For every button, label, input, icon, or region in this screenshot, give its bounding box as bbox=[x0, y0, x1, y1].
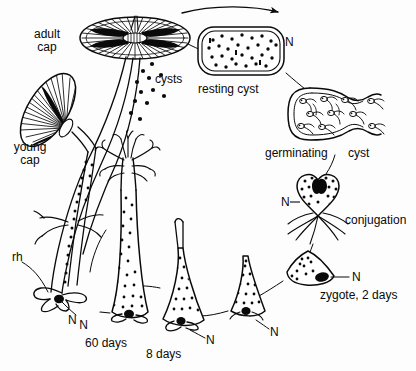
fusion-nucleus bbox=[312, 179, 327, 194]
label-conjugation: conjugation bbox=[345, 213, 406, 227]
label-n-60days: N bbox=[79, 318, 88, 332]
young-cap-stalk bbox=[68, 148, 96, 286]
acetabularia-life-cycle-diagram: adult cap young cap cysts N resting cyst… bbox=[0, 0, 416, 371]
connector-juvenile-to-8days bbox=[200, 311, 228, 316]
figure-canvas: adult cap young cap cysts N resting cyst… bbox=[0, 0, 416, 371]
connector-60days-to-adult bbox=[90, 230, 106, 272]
label-zygote: zygote, 2 days bbox=[320, 288, 397, 302]
8days-nucleus bbox=[176, 317, 185, 325]
n-8days-leader bbox=[190, 330, 205, 338]
conjugation-illustration bbox=[288, 175, 348, 244]
zygote-illustration bbox=[287, 251, 334, 285]
stage-60-days-illustration bbox=[95, 130, 160, 323]
stage-8-days-illustration bbox=[163, 219, 204, 331]
label-cyst: cyst bbox=[348, 146, 370, 160]
stalk-whorl-hairs bbox=[34, 211, 103, 244]
label-adult-cap-line2: cap bbox=[37, 40, 57, 54]
label-resting-cyst: resting cyst bbox=[198, 82, 259, 96]
label-adult-cap-line1: adult bbox=[34, 27, 61, 41]
60days-nucleus bbox=[124, 310, 134, 318]
label-n-zygote: N bbox=[352, 270, 361, 284]
adult-cap-illustration bbox=[80, 16, 190, 59]
label-young-cap-line2: cap bbox=[20, 153, 40, 167]
label-8-days: 8 days bbox=[146, 347, 181, 361]
connector-resting-to-germinating bbox=[286, 73, 305, 89]
conjugation-flagella bbox=[288, 213, 348, 244]
label-n-juvenile: N bbox=[270, 325, 279, 339]
n-60days-leader bbox=[100, 312, 110, 313]
germinating-cyst-illustration bbox=[288, 88, 385, 140]
cysts-scatter bbox=[129, 62, 166, 121]
rhizoid-illustration bbox=[34, 288, 87, 312]
label-60-days: 60 days bbox=[85, 336, 127, 350]
resting-cyst-illustration bbox=[198, 27, 284, 75]
label-germinating: germinating bbox=[265, 146, 328, 160]
label-n-conjugation: N bbox=[281, 195, 290, 209]
connector-zygote-to-juvenile bbox=[259, 281, 283, 296]
juvenile-illustration bbox=[230, 256, 265, 320]
label-young-cap-line1: young bbox=[14, 140, 47, 154]
juvenile-nucleus bbox=[241, 307, 250, 315]
label-cysts: cysts bbox=[155, 72, 182, 86]
label-n-8days: N bbox=[206, 333, 215, 347]
n-juvenile-leader bbox=[256, 320, 269, 329]
label-n-rhizoid: N bbox=[68, 313, 77, 327]
label-n-top: N bbox=[285, 35, 294, 49]
cycle-direction-arrow bbox=[182, 7, 278, 13]
label-rhizoid: rh bbox=[12, 250, 23, 264]
